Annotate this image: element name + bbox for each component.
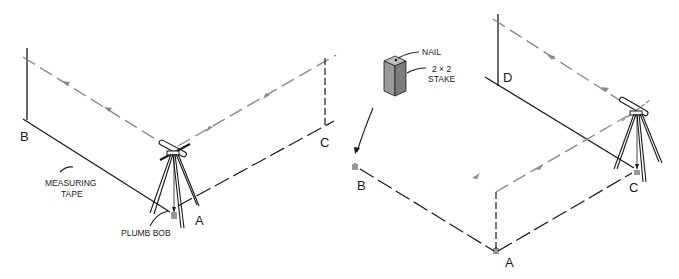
sight-arrow-icon (535, 164, 543, 170)
corner-label-d: D (503, 70, 512, 85)
measuring-tape-line (23, 119, 170, 212)
stake-icon (384, 56, 406, 96)
corner-label-c: C (320, 135, 329, 150)
corner-label-a: A (195, 213, 204, 228)
stake-label: STAKE (428, 74, 456, 84)
layout-diagram: B C A MEASURING TAPE PLUMB BOB NAIL 2 × … (0, 0, 679, 279)
right-diagram: NAIL 2 × 2 STAKE (353, 14, 662, 270)
corner-label-a: A (505, 255, 514, 270)
curved-arrow (357, 108, 373, 152)
arrow-head-icon (354, 147, 360, 154)
measuring-tape-label: TAPE (61, 189, 83, 199)
measuring-tape-label: MEASURING (45, 178, 96, 188)
sight-arrow-icon (547, 55, 555, 60)
plumb-bob-icon (172, 207, 176, 219)
measuring-tape-leader (60, 167, 73, 172)
transit-instrument-icon (614, 96, 662, 182)
corner-label-b: B (20, 129, 29, 144)
line-d-to-c (485, 77, 634, 168)
sight-line-to-a (496, 116, 627, 192)
transit-instrument-icon (150, 139, 199, 228)
nail-leader (398, 52, 419, 58)
left-diagram: B C A MEASURING TAPE PLUMB BOB (20, 48, 336, 238)
plumb-bob-leader (150, 211, 168, 226)
nail-icon (395, 59, 398, 62)
stake-marker-a-icon (494, 247, 498, 254)
stake-leader (407, 68, 426, 73)
stake-size-label: 2 × 2 (432, 64, 451, 74)
sight-line-to-d (493, 19, 624, 103)
nail-label: NAIL (422, 47, 441, 57)
baseline-a-to-c (178, 121, 334, 206)
plumb-bob-label: PLUMB BOB (121, 228, 171, 238)
baseline-b-to-a (360, 169, 494, 251)
baseline-a-to-c (498, 173, 632, 251)
corner-label-b: B (357, 178, 366, 193)
stake-marker-b-icon (353, 163, 357, 170)
corner-label-c: C (629, 180, 638, 195)
sight-arrow-icon (472, 173, 480, 179)
